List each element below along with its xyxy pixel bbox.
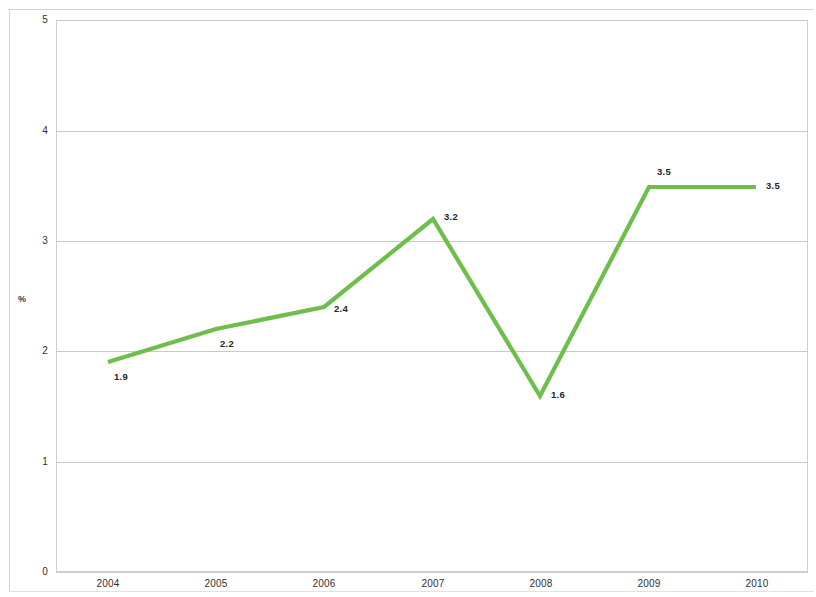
y-axis-title: % — [18, 294, 26, 304]
x-tick-label-2008: 2008 — [511, 578, 571, 589]
gridline-y-4 — [56, 131, 808, 132]
x-tick-label-2007: 2007 — [403, 578, 463, 589]
data-label-2005: 2.2 — [220, 338, 234, 349]
x-tick-label-2009: 2009 — [619, 578, 679, 589]
gridline-y-1 — [56, 462, 808, 463]
data-label-2007: 3.2 — [444, 211, 458, 222]
y-tick-label-3: 3 — [8, 235, 48, 246]
data-label-2010: 3.5 — [766, 180, 780, 191]
gridline-y-5 — [56, 20, 808, 21]
y-tick-label-2: 2 — [8, 345, 48, 356]
x-tick-label-2005: 2005 — [186, 578, 246, 589]
y-tick-label-0: 0 — [8, 566, 48, 577]
y-tick-label-4: 4 — [8, 125, 48, 136]
y-tick-label-1: 1 — [8, 456, 48, 467]
data-label-2004: 1.9 — [114, 371, 128, 382]
y-tick-label-5: 5 — [8, 14, 48, 25]
data-label-2009: 3.5 — [657, 166, 671, 177]
x-tick-label-2006: 2006 — [294, 578, 354, 589]
gridline-y-2 — [56, 351, 808, 352]
x-tick-label-2010: 2010 — [727, 578, 787, 589]
data-label-2008: 1.6 — [551, 389, 565, 400]
data-label-2006: 2.4 — [334, 303, 348, 314]
gridline-y-3 — [56, 241, 808, 242]
plot-area-border — [56, 20, 808, 572]
gridline-y-0 — [56, 572, 808, 573]
line-chart: 5 4 3 2 1 0 % 2004 2005 2006 2007 2008 2… — [0, 0, 816, 597]
x-tick-label-2004: 2004 — [78, 578, 138, 589]
